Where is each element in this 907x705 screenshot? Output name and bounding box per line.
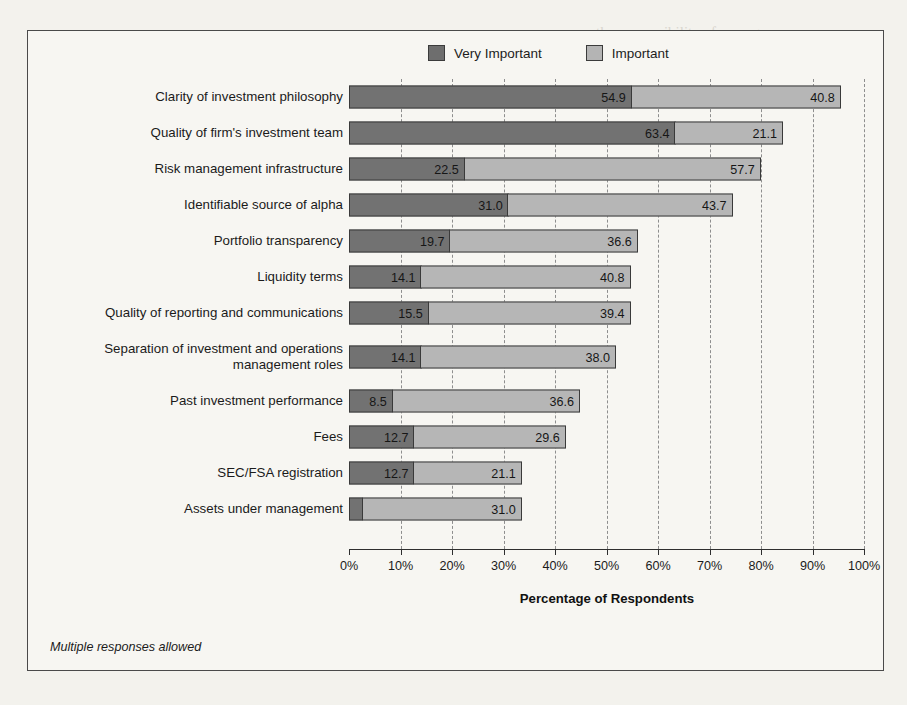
x-tick-label: 70%	[697, 559, 722, 573]
bar-segment-important: 43.7	[507, 194, 732, 217]
bar-segment-very-important: 31.0	[349, 194, 509, 217]
scanned-figure-page: the responsibility of managerPublic fund…	[0, 0, 907, 705]
x-tick	[813, 549, 814, 555]
category-label: SEC/FSA registration	[43, 465, 343, 481]
bar-segment-important: 38.0	[420, 346, 616, 369]
bar-segment-important: 21.1	[413, 462, 522, 485]
bar-segment-important: 21.1	[674, 122, 783, 145]
bar-segment-important: 29.6	[413, 426, 565, 449]
bar-value-label: 29.6	[535, 430, 565, 444]
bar-segment-very-important: 12.7	[349, 462, 414, 485]
bar-segment-very-important: 12.7	[349, 426, 414, 449]
stacked-bar: 22.557.7	[349, 158, 761, 181]
bar-segment-very-important: 22.5	[349, 158, 465, 181]
x-tick	[401, 549, 402, 555]
bar-value-label: 21.1	[491, 466, 521, 480]
bar-segment-important: 36.6	[449, 230, 637, 253]
category-label: Clarity of investment philosophy	[43, 89, 343, 105]
stacked-bar: 12.729.6	[349, 426, 566, 449]
bar-value-label: 31.0	[491, 502, 521, 516]
bar-segment-important: 36.6	[392, 390, 580, 413]
x-tick	[761, 549, 762, 555]
bar-segment-very-important: 63.4	[349, 122, 676, 145]
x-tick-label: 50%	[594, 559, 619, 573]
x-tick-label: 90%	[800, 559, 825, 573]
bar-value-label: 43.7	[702, 198, 732, 212]
category-label: Identifiable source of alpha	[43, 197, 343, 213]
bar-segment-very-important: 54.9	[349, 86, 632, 109]
bar-row: Assets under management31.0	[28, 491, 885, 527]
bar-value-label: 12.7	[384, 430, 414, 444]
bar-value-label: 15.5	[398, 306, 428, 320]
x-tick	[658, 549, 659, 555]
bar-row: Liquidity terms14.140.8	[28, 259, 885, 295]
category-label: Portfolio transparency	[43, 233, 343, 249]
bar-segment-important: 31.0	[362, 498, 522, 521]
stacked-bar: 54.940.8	[349, 86, 841, 109]
bar-row: Portfolio transparency19.736.6	[28, 223, 885, 259]
bar-row: Past investment performance8.536.6	[28, 383, 885, 419]
bar-value-label: 36.6	[550, 394, 580, 408]
category-label: Past investment performance	[43, 393, 343, 409]
x-axis-title: Percentage of Respondents	[349, 591, 865, 606]
stacked-bar: 63.421.1	[349, 122, 783, 145]
bar-value-label: 14.1	[391, 270, 421, 284]
x-tick-label: 40%	[542, 559, 567, 573]
bar-row: Fees12.729.6	[28, 419, 885, 455]
stacked-bar: 14.140.8	[349, 266, 631, 289]
bar-segment-very-important: 8.5	[349, 390, 393, 413]
bar-value-label: 14.1	[391, 350, 421, 364]
x-tick	[864, 549, 865, 555]
bar-value-label: 22.5	[434, 162, 464, 176]
bar-row: Clarity of investment philosophy54.940.8	[28, 79, 885, 115]
x-tick-label: 20%	[439, 559, 464, 573]
bar-segment-very-important: 19.7	[349, 230, 450, 253]
stacked-bar: 14.138.0	[349, 346, 616, 369]
bar-segment-important: 40.8	[420, 266, 630, 289]
x-tick	[607, 549, 608, 555]
bar-segment-very-important: 15.5	[349, 302, 429, 325]
bar-segment-very-important: 14.1	[349, 266, 422, 289]
bar-value-label: 21.1	[752, 126, 782, 140]
bar-value-label: 8.5	[369, 394, 392, 408]
category-label: Assets under management	[43, 501, 343, 517]
category-label: Separation of investment and operations …	[43, 341, 343, 372]
x-tick	[710, 549, 711, 555]
bar-value-label: 19.7	[420, 234, 450, 248]
x-tick	[504, 549, 505, 555]
bar-value-label: 57.7	[730, 162, 760, 176]
x-tick	[555, 549, 556, 555]
x-tick-label: 60%	[645, 559, 670, 573]
stacked-bar: 8.536.6	[349, 390, 580, 413]
bar-value-label: 36.6	[607, 234, 637, 248]
bar-segment-very-important: 14.1	[349, 346, 422, 369]
stacked-bar: 31.0	[349, 498, 522, 521]
x-tick-label: 0%	[340, 559, 358, 573]
bar-row: Risk management infrastructure22.557.7	[28, 151, 885, 187]
category-label: Fees	[43, 429, 343, 445]
bar-segment-important: 39.4	[428, 302, 631, 325]
bar-row: Identifiable source of alpha31.043.7	[28, 187, 885, 223]
bar-rows: Clarity of investment philosophy54.940.8…	[28, 79, 885, 527]
stacked-bar: 19.736.6	[349, 230, 638, 253]
category-label: Quality of firm's investment team	[43, 125, 343, 141]
category-label: Risk management infrastructure	[43, 161, 343, 177]
bar-segment-important: 57.7	[464, 158, 761, 181]
bar-value-label: 40.8	[810, 90, 840, 104]
category-label: Liquidity terms	[43, 269, 343, 285]
bar-row: Quality of reporting and communications1…	[28, 295, 885, 331]
bar-value-label: 63.4	[645, 126, 675, 140]
stacked-bar: 31.043.7	[349, 194, 733, 217]
x-tick-label: 80%	[748, 559, 773, 573]
stacked-bar: 12.721.1	[349, 462, 522, 485]
bar-segment-important: 40.8	[631, 86, 841, 109]
bar-row: Quality of firm's investment team63.421.…	[28, 115, 885, 151]
bar-value-label: 12.7	[384, 466, 414, 480]
chart-footnote: Multiple responses allowed	[50, 640, 201, 654]
bar-value-label: 31.0	[478, 198, 508, 212]
x-tick-label: 30%	[491, 559, 516, 573]
bar-value-label: 38.0	[586, 350, 616, 364]
category-label: Quality of reporting and communications	[43, 305, 343, 321]
x-tick-label: 10%	[388, 559, 413, 573]
x-tick	[452, 549, 453, 555]
